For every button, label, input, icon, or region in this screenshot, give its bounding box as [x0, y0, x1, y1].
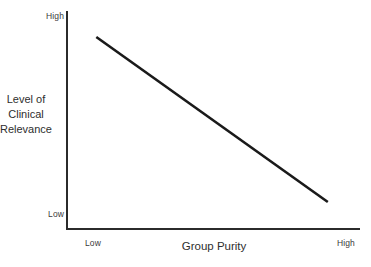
x-axis-title: Group Purity	[152, 240, 276, 252]
x-axis-tick-high: High	[337, 238, 355, 248]
y-axis-tick-low: Low	[48, 209, 64, 219]
trend-line	[96, 37, 327, 202]
y-axis-title: Level of Clinical Relevance	[0, 92, 66, 137]
chart-figure: High Low Level of Clinical Relevance Low…	[0, 0, 371, 267]
y-axis-title-line-3: Relevance	[0, 122, 66, 137]
y-axis-title-line-1: Level of	[0, 92, 66, 107]
x-axis-tick-low: Low	[85, 238, 101, 248]
y-axis-tick-high: High	[46, 11, 64, 21]
y-axis-title-line-2: Clinical	[0, 107, 66, 122]
